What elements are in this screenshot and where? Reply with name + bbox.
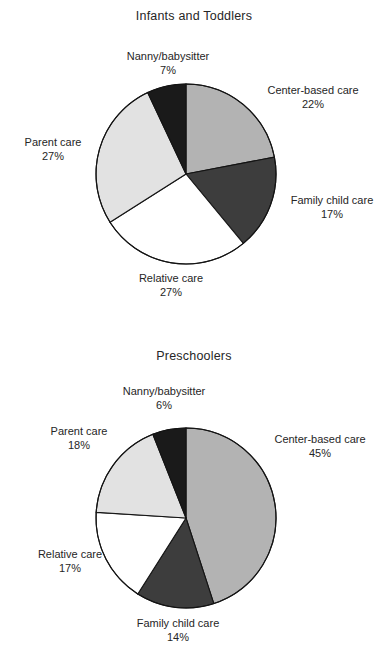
pie-label-percent: 45% bbox=[258, 447, 382, 461]
chart-figure-preschoolers: Preschoolers Nanny/babysitter6%Center-ba… bbox=[0, 330, 388, 663]
pie-label: Parent care18% bbox=[32, 425, 126, 452]
pie-label-percent: 6% bbox=[100, 399, 228, 413]
pie-label-percent: 27% bbox=[121, 286, 221, 300]
pie-label-name: Nanny/babysitter bbox=[104, 50, 232, 64]
chart-figure-infants-and-toddlers: Infants and Toddlers Nanny/babysitter7%C… bbox=[0, 0, 388, 330]
pie-label-percent: 14% bbox=[114, 631, 242, 645]
pie-label-name: Parent care bbox=[32, 425, 126, 439]
pie-label-percent: 7% bbox=[104, 64, 232, 78]
pie-label-percent: 22% bbox=[252, 98, 374, 112]
pie-label: Center-based care45% bbox=[258, 433, 382, 460]
pie-label-name: Center-based care bbox=[258, 433, 382, 447]
pie-label-name: Relative care bbox=[22, 548, 118, 562]
pie-label: Parent care27% bbox=[8, 136, 98, 163]
pie-label-percent: 27% bbox=[8, 150, 98, 164]
pie-label: Nanny/babysitter6% bbox=[100, 385, 228, 412]
pie-chart-preschoolers bbox=[0, 330, 388, 663]
pie-label: Family child care17% bbox=[276, 194, 388, 221]
pie-label: Relative care27% bbox=[121, 272, 221, 299]
pie-label-name: Relative care bbox=[121, 272, 221, 286]
pie-label-percent: 18% bbox=[32, 439, 126, 453]
pie-label-name: Parent care bbox=[8, 136, 98, 150]
pie-label-name: Family child care bbox=[114, 617, 242, 631]
pie-label: Center-based care22% bbox=[252, 84, 374, 111]
pie-label-name: Family child care bbox=[276, 194, 388, 208]
pie-label: Nanny/babysitter7% bbox=[104, 50, 232, 77]
pie-label-name: Center-based care bbox=[252, 84, 374, 98]
pie-label-percent: 17% bbox=[22, 562, 118, 576]
pie-label: Family child care14% bbox=[114, 617, 242, 644]
pie-label-name: Nanny/babysitter bbox=[100, 385, 228, 399]
pie-label-percent: 17% bbox=[276, 208, 388, 222]
pie-label: Relative care17% bbox=[22, 548, 118, 575]
